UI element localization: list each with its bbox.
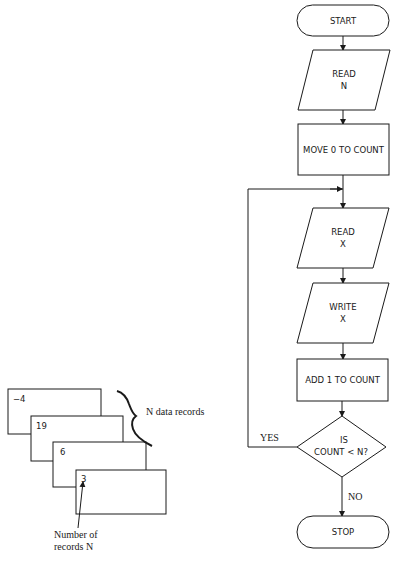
header-card-value: 3 <box>81 474 86 484</box>
brace-label: N data records <box>146 406 204 417</box>
read-x-label-2: X <box>340 239 346 249</box>
read-n-io <box>298 50 390 110</box>
card-value-3: 6 <box>60 447 65 457</box>
header-card <box>76 470 166 514</box>
write-x-label-2: X <box>340 314 346 324</box>
write-x-label-1: WRITE <box>329 302 356 312</box>
decision-label-2: COUNT < N? <box>314 447 368 457</box>
read-x-label-1: READ <box>331 227 355 237</box>
read-n-label-2: N <box>341 81 347 91</box>
card-deck: −4 19 6 3 N data records Number of recor… <box>8 389 204 552</box>
read-n-label-1: READ <box>332 69 356 79</box>
move-label: MOVE 0 TO COUNT <box>303 145 385 155</box>
flowchart: START READ N MOVE 0 TO COUNT YES READ X … <box>248 5 390 548</box>
read-x-io <box>297 208 389 268</box>
write-x-io <box>297 283 389 343</box>
stop-label: STOP <box>332 527 354 537</box>
start-label: START <box>330 16 357 26</box>
diagram-canvas: −4 19 6 3 N data records Number of recor… <box>0 0 399 565</box>
pointer-label-line1: Number of <box>54 529 98 540</box>
yes-label: YES <box>260 432 279 443</box>
decision-label-1: IS <box>340 435 348 445</box>
card-value-2: 19 <box>36 421 47 431</box>
add-label: ADD 1 TO COUNT <box>305 375 381 385</box>
pointer-label-line2: records N <box>54 541 93 552</box>
card-value-1: −4 <box>13 394 26 404</box>
no-label: NO <box>348 491 362 502</box>
